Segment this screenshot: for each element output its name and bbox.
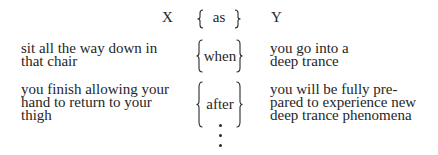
row1-right-line2: deep trance [270, 55, 349, 68]
ellipsis-dot [219, 134, 222, 137]
ellipsis-dot [219, 144, 222, 147]
connector-after: after [203, 96, 237, 113]
row2-left-text: you finish allowing your hand to return … [21, 83, 169, 122]
row1-left-text: sit all the way down in that chair [21, 42, 157, 68]
row1-right-text: you go into a deep trance [270, 42, 349, 68]
ellipsis-dot [219, 124, 222, 127]
row2-right-text: you will be fully pre- pared to experien… [270, 83, 416, 122]
connector-when: when [203, 48, 237, 65]
right-brace-icon [233, 10, 241, 28]
row2-left-line3: thigh [21, 109, 169, 122]
column-header-x: X [162, 9, 173, 26]
left-brace-icon [197, 10, 205, 28]
row2-right-line3: deep trance phenomena [270, 109, 416, 122]
right-brace-icon [235, 40, 243, 72]
row1-left-line2: that chair [21, 55, 157, 68]
column-header-y: Y [271, 9, 282, 26]
right-brace-icon [235, 82, 243, 127]
connector-as: as [205, 9, 233, 26]
